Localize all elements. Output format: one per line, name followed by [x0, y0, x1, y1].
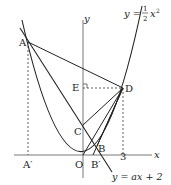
svg-text:2: 2: [156, 7, 160, 14]
point-O-label: O: [75, 159, 83, 170]
point-C-label: C: [74, 126, 82, 137]
point-E-label: E: [72, 82, 79, 93]
point-Aprime-label: A′: [22, 159, 33, 170]
svg-text:y =: y =: [123, 8, 141, 19]
line-equation-label: y = ax + 2: [111, 171, 162, 182]
point-Bprime-label: B′: [91, 159, 101, 170]
tick-label-3: 3: [120, 151, 126, 162]
segment-CD: [83, 88, 123, 125]
right-angle-mark: [83, 84, 87, 88]
point-A-label: A: [18, 37, 27, 48]
segment-BD: [97, 88, 123, 146]
svg-text:1: 1: [143, 5, 147, 13]
y-axis-label: y: [83, 13, 90, 24]
point-B-label: B: [98, 143, 105, 154]
point-D-label: D: [125, 83, 133, 94]
diagram-canvas: y x A A′ E D C B O B′ 3 y = 1 2 x 2 y = …: [0, 0, 171, 185]
x-axis-label: x: [154, 149, 160, 160]
parabola-curve: [22, 6, 142, 152]
svg-text:2: 2: [143, 15, 147, 23]
